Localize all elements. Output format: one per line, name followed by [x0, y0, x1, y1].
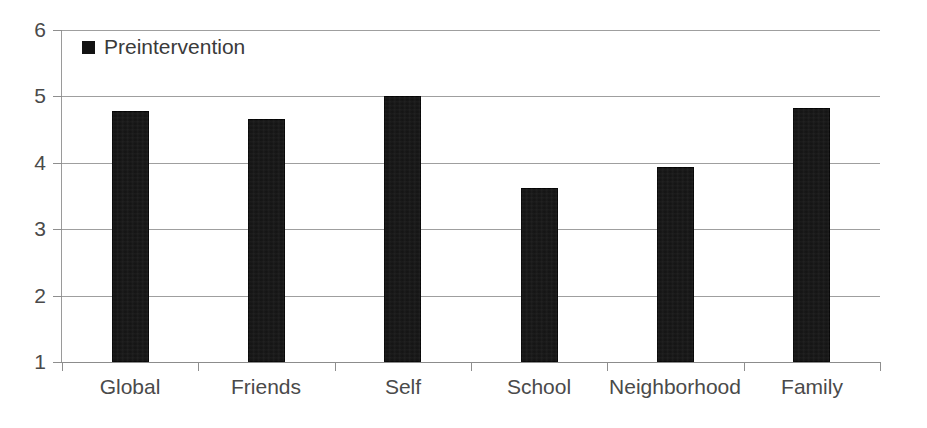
y-tick-label: 5: [16, 85, 46, 106]
bar: [793, 108, 830, 362]
gridline: [62, 96, 880, 97]
gridline: [62, 229, 880, 230]
legend: Preintervention: [82, 36, 245, 58]
bar: [657, 167, 694, 362]
y-tick-label: 3: [16, 218, 46, 239]
gridline: [62, 296, 880, 297]
y-tick-mark: [53, 296, 62, 297]
gridline: [62, 30, 880, 31]
gridline: [62, 163, 880, 164]
bar: [384, 96, 421, 362]
bar: [248, 119, 285, 362]
y-tick-label: 2: [16, 285, 46, 306]
x-tick-mark: [471, 362, 472, 371]
y-tick-mark: [53, 229, 62, 230]
x-tick-mark: [744, 362, 745, 371]
x-tick-mark: [335, 362, 336, 371]
bar-texture: [384, 96, 421, 362]
bar: [521, 188, 558, 362]
bar-texture: [793, 108, 830, 362]
y-tick-mark: [53, 163, 62, 164]
y-tick-mark: [53, 362, 62, 363]
x-tick-mark: [198, 362, 199, 371]
bar: [112, 111, 149, 362]
y-tick-label-wrap: 2: [8, 285, 46, 306]
y-tick-label-wrap: 3: [8, 218, 46, 239]
x-axis-label: Global: [62, 375, 198, 399]
y-tick-mark: [53, 96, 62, 97]
x-tick-mark: [880, 362, 881, 371]
x-axis-label: Self: [335, 375, 471, 399]
legend-label: Preintervention: [104, 36, 245, 58]
x-axis-label: Family: [744, 375, 880, 399]
x-axis-label: Friends: [198, 375, 334, 399]
bar-texture: [248, 119, 285, 362]
y-tick-label: 1: [16, 351, 46, 372]
bar-texture: [521, 188, 558, 362]
y-tick-mark: [53, 30, 62, 31]
x-axis-label: School: [471, 375, 607, 399]
bar-texture: [657, 167, 694, 362]
y-tick-label-wrap: 1: [8, 351, 46, 372]
bar-chart: 123456 GlobalFriendsSelfSchoolNeighborho…: [0, 0, 927, 428]
x-tick-mark: [607, 362, 608, 371]
y-tick-label-wrap: 5: [8, 85, 46, 106]
plot-area: [62, 30, 880, 362]
y-tick-label: 6: [16, 19, 46, 40]
y-tick-label-wrap: 6: [8, 19, 46, 40]
x-tick-mark: [62, 362, 63, 371]
x-axis-label: Neighborhood: [607, 375, 743, 399]
legend-swatch-icon: [82, 41, 95, 54]
y-tick-label-wrap: 4: [8, 152, 46, 173]
bar-texture: [112, 111, 149, 362]
y-tick-label: 4: [16, 152, 46, 173]
